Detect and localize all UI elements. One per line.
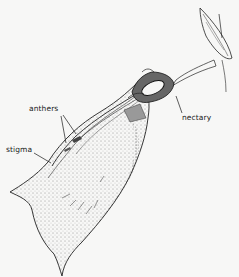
label-nectary: nectary [182, 113, 211, 122]
nectary-leader [176, 96, 182, 113]
anthers-leader-2 [63, 115, 76, 134]
anthers-leader-1 [61, 116, 66, 143]
floral-base [124, 69, 174, 122]
label-anthers: anthers [29, 104, 58, 113]
bract [200, 8, 232, 92]
flower-illustration [0, 0, 239, 277]
label-stigma: stigma [6, 145, 32, 154]
pedicel [172, 60, 216, 86]
diagram-canvas: anthers stigma nectary [0, 0, 239, 277]
stigma-leader [34, 153, 51, 163]
